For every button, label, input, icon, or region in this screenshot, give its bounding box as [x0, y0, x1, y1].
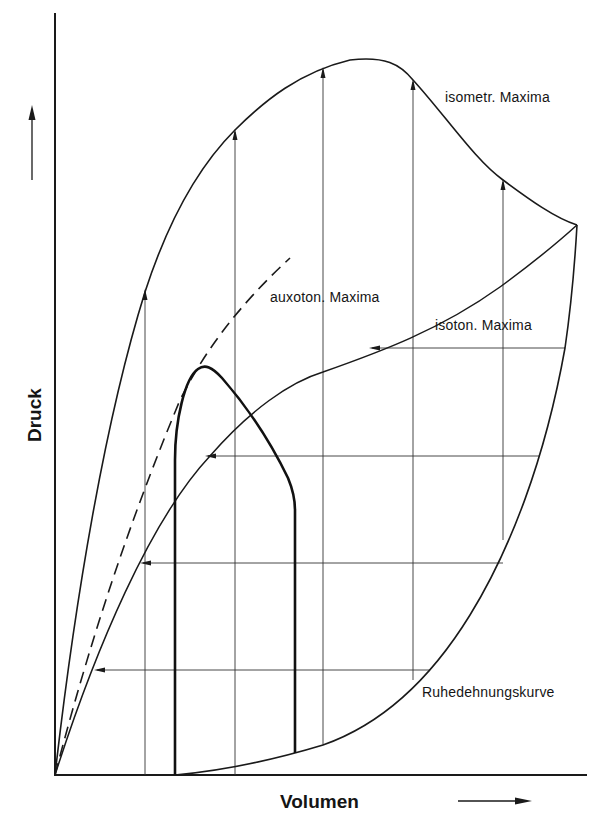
isotonic-maxima-label: isoton. Maxima [435, 317, 532, 333]
resting-tension-label: Ruhedehnungskurve [422, 684, 555, 700]
auxotonic-maxima-curve [55, 258, 290, 775]
isotonic-arrows [94, 346, 565, 673]
pressure-volume-diagram [0, 0, 609, 826]
y-axis-label: Druck [24, 388, 46, 442]
x-axis-label: Volumen [280, 791, 359, 813]
up-arrow-icon [29, 105, 36, 180]
right-arrow-icon [458, 798, 532, 805]
isometric-maxima-label: isometr. Maxima [445, 89, 550, 105]
isometric-arrows [143, 67, 506, 775]
isometric-maxima-curve [55, 59, 577, 775]
auxotonic-maxima-label: auxoton. Maxima [270, 289, 380, 305]
